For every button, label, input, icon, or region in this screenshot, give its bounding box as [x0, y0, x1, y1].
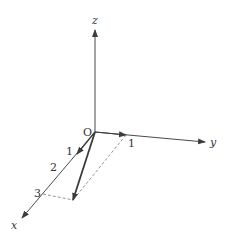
- unit-vector-y: [95, 132, 126, 135]
- x-axis-label: x: [11, 219, 18, 232]
- resultant-vector: [73, 132, 95, 200]
- y-tick-1: 1: [128, 137, 135, 150]
- z-axis-label: z: [91, 14, 98, 27]
- y-axis-label: y: [209, 136, 217, 149]
- axes-diagram: z y x O 1 2 3 1: [0, 0, 227, 240]
- origin-label: O: [83, 126, 92, 139]
- dashed-guide-y1: [73, 135, 126, 200]
- x-tick-3: 3: [34, 187, 41, 200]
- dashed-guide-x3: [43, 194, 73, 200]
- x-tick-2: 2: [50, 161, 57, 174]
- x-tick-1: 1: [66, 145, 73, 158]
